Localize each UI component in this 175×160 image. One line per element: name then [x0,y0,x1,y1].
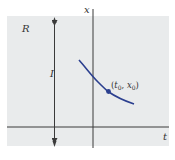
x-axis-label: x [84,4,90,15]
solution-curve-diagram: x R I t (t0, x0) [0,0,175,160]
region-label: R [21,23,30,34]
point-label-close: ) [136,80,139,90]
point-label: (t0, x0) [111,80,139,91]
